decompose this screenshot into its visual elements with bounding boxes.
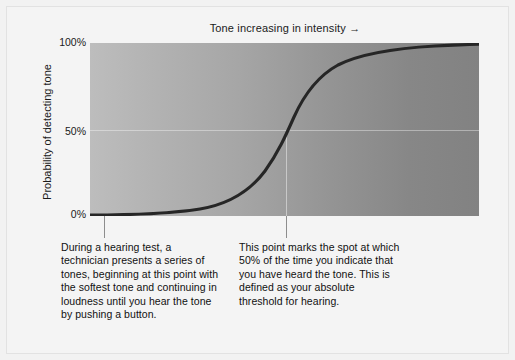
caption-start-point: During a hearing test, a technician pres… bbox=[61, 241, 219, 321]
plot-area bbox=[90, 43, 479, 216]
y-axis-title: Probability of detecting tone bbox=[41, 42, 53, 222]
chart-title: Tone increasing in intensity → bbox=[90, 22, 480, 34]
caption-absolute-threshold: This point marks the spot at which 50% o… bbox=[239, 241, 401, 308]
detection-probability-curve bbox=[90, 43, 479, 216]
leader-line-right bbox=[286, 216, 287, 238]
leader-line-left bbox=[104, 216, 105, 238]
psychophysics-threshold-figure: Tone increasing in intensity → 100% 50% … bbox=[0, 0, 515, 360]
